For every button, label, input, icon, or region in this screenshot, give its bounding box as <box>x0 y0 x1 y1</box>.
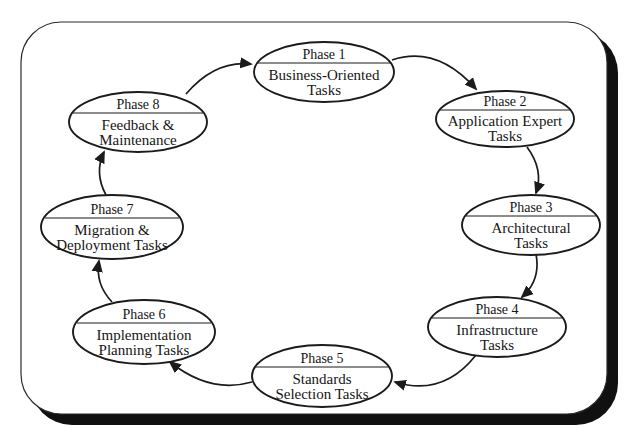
phase-6-task-line2: Planning Tasks <box>99 342 190 358</box>
phase-1-task-line2: Tasks <box>307 82 341 98</box>
phase-1-node: Phase 1 Business-Oriented Tasks <box>254 42 394 102</box>
phase-2-label: Phase 2 <box>483 94 526 109</box>
phase-7-task-line2: Deployment Tasks <box>56 237 168 253</box>
phase-6-task-line1: Implementation <box>97 327 192 343</box>
phase-5-node: Phase 5 Standards Selection Tasks <box>252 345 392 407</box>
scanned-figure: Phase 1 Business-Oriented Tasks Phase 2 … <box>0 0 643 442</box>
phase-7-task-line1: Migration & <box>74 222 150 238</box>
phase-5-label: Phase 5 <box>300 351 343 366</box>
phase-8-task-line2: Maintenance <box>99 132 177 148</box>
phase-2-task-line1: Application Expert <box>448 113 563 129</box>
phase-1-task-line1: Business-Oriented <box>269 67 380 83</box>
phase-5-task-line2: Selection Tasks <box>275 386 368 402</box>
phase-3-task-line1: Architectural <box>491 220 570 236</box>
phase-8-task-line1: Feedback & <box>102 117 175 133</box>
phase-2-task-line2: Tasks <box>488 128 522 144</box>
phase-8-node: Phase 8 Feedback & Maintenance <box>69 92 207 152</box>
cycle-diagram-canvas: Phase 1 Business-Oriented Tasks Phase 2 … <box>0 0 643 442</box>
phase-6-node: Phase 6 Implementation Planning Tasks <box>73 300 215 364</box>
phase-3-node: Phase 3 Architectural Tasks <box>462 195 600 255</box>
phase-4-label: Phase 4 <box>475 302 518 317</box>
phase-4-task-line1: Infrastructure <box>456 322 538 338</box>
phase-6-label: Phase 6 <box>122 307 165 322</box>
phase-3-label: Phase 3 <box>509 200 552 215</box>
phase-8-label: Phase 8 <box>116 97 159 112</box>
phase-7-label: Phase 7 <box>90 202 133 217</box>
phase-7-node: Phase 7 Migration & Deployment Tasks <box>41 195 183 259</box>
phase-4-node: Phase 4 Infrastructure Tasks <box>428 297 566 357</box>
phase-5-task-line1: Standards <box>292 371 351 387</box>
phase-1-label: Phase 1 <box>302 47 345 62</box>
phase-3-task-line2: Tasks <box>514 235 548 251</box>
phase-2-node: Phase 2 Application Expert Tasks <box>436 91 574 147</box>
phase-4-task-line2: Tasks <box>480 337 514 353</box>
